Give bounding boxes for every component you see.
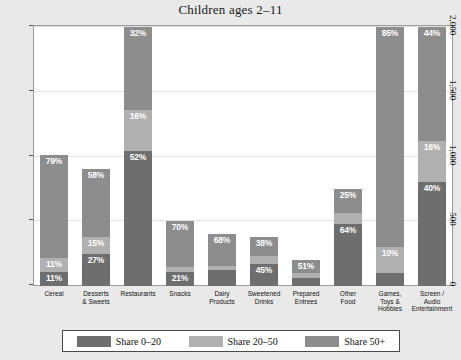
bar-segment: 58% (82, 169, 110, 236)
legend-label: Share 50+ (344, 336, 385, 347)
bar-segment-label: 21% (166, 273, 194, 284)
bar-segment-label: 16% (418, 142, 446, 153)
bar-segment: 79% (40, 155, 68, 257)
bar-segment-label: 32% (124, 28, 152, 39)
bar-segment: 10% (376, 247, 404, 273)
bar-stack[interactable]: 68% (208, 234, 236, 286)
bar-stack[interactable]: 70%21% (166, 221, 194, 286)
bar-segment-label: 11% (40, 273, 68, 284)
x-axis-category-label: Snacks (159, 290, 201, 298)
legend-label: Share 0–20 (116, 336, 161, 347)
bar-segment-label: 52% (124, 152, 152, 163)
legend-swatch (305, 336, 339, 347)
bar-segment-label: 25% (334, 190, 362, 201)
bar-segment: 70% (166, 221, 194, 266)
bar-segment-label: 10% (376, 248, 404, 259)
bar-segment-label: 70% (166, 222, 194, 233)
bar-stack[interactable]: 44%16%40% (418, 27, 446, 286)
bar-stack[interactable]: 32%16%52% (124, 27, 152, 286)
x-axis-category-label: Restaurants (117, 290, 159, 298)
bar-segment (208, 270, 236, 286)
bar-segment (250, 256, 278, 264)
bar-stack[interactable]: 79%11%11% (40, 155, 68, 286)
bar-segment-label: 16% (124, 111, 152, 122)
bar-segment: 11% (40, 258, 68, 272)
bar-segment-label: 27% (82, 255, 110, 266)
bar-segment-label: 68% (208, 235, 236, 246)
x-axis-category-label: Desserts& Sweets (75, 290, 117, 305)
x-axis-category-label: DairyProducts (201, 290, 243, 305)
legend-item[interactable]: Share 50+ (305, 336, 385, 347)
legend-item[interactable]: Share 0–20 (77, 336, 161, 347)
bar-stack[interactable]: 51% (292, 260, 320, 286)
bar-segment: 44% (418, 27, 446, 141)
bar-segment-label: 79% (40, 156, 68, 167)
bar-segment-label: 40% (418, 183, 446, 194)
bar-segment: 45% (250, 264, 278, 286)
bar-segment: 52% (124, 151, 152, 286)
bar-segment-label: 15% (82, 238, 110, 249)
bar-segment-label: 64% (334, 225, 362, 236)
bar-segment (376, 273, 404, 286)
bar-segment: 38% (250, 237, 278, 256)
bar-segment (334, 213, 362, 224)
bar-segment: 21% (166, 272, 194, 286)
x-axis-category-label: Screen /AudioEntertainment (411, 290, 453, 313)
legend-swatch (189, 336, 223, 347)
bar-segment (292, 278, 320, 286)
bar-segment-label: 85% (376, 28, 404, 39)
bar-segment-label: 45% (250, 265, 278, 276)
bar-segment-label: 38% (250, 238, 278, 249)
bars-layer: 79%11%11%58%15%27%32%16%52%70%21%68%38%4… (33, 25, 453, 286)
legend-label: Share 20–50 (228, 336, 278, 347)
x-axis-category-label: OtherFood (327, 290, 369, 305)
legend-item[interactable]: Share 20–50 (189, 336, 278, 347)
bar-segment: 11% (40, 272, 68, 286)
legend-swatch (77, 336, 111, 347)
bar-segment: 27% (82, 254, 110, 286)
bar-stack[interactable]: 25%64% (334, 189, 362, 286)
bar-segment: 40% (418, 182, 446, 286)
bar-segment: 25% (334, 189, 362, 213)
bar-segment-label: 44% (418, 28, 446, 39)
bar-stack[interactable]: 85%10% (376, 27, 404, 286)
bar-segment-label: 11% (40, 259, 68, 270)
bar-segment: 16% (418, 141, 446, 182)
bar-segment: 68% (208, 234, 236, 266)
bar-segment-label: 58% (82, 170, 110, 181)
bar-stack[interactable]: 58%15%27% (82, 169, 110, 286)
bar-segment-label: 51% (292, 261, 320, 272)
bar-segment: 64% (334, 224, 362, 286)
chart-legend: Share 0–20Share 20–50Share 50+ (62, 330, 400, 352)
x-axis-category-label: Cereal (33, 290, 75, 298)
bar-segment: 16% (124, 110, 152, 151)
bar-segment: 15% (82, 237, 110, 254)
bar-stack[interactable]: 38%45% (250, 237, 278, 286)
bar-segment: 32% (124, 27, 152, 110)
x-axis-category-label: Games,Toys &Hobbies (369, 290, 411, 313)
x-axis-category-label: SweetenedDrinks (243, 290, 285, 305)
bar-segment: 51% (292, 260, 320, 273)
bar-segment: 85% (376, 27, 404, 247)
x-axis-category-label: PreparedEntrees (285, 290, 327, 305)
